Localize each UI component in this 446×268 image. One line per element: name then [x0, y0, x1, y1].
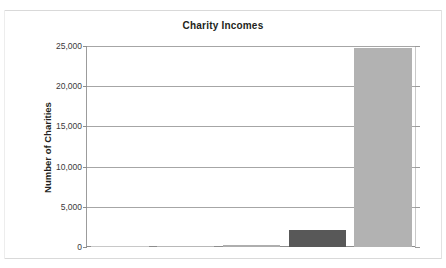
- y-axis-tick-right: [415, 207, 420, 208]
- y-axis-tick-labels: 05,00010,00015,00020,00025,000: [36, 0, 82, 268]
- plot-right-edge: [415, 46, 416, 247]
- y-axis-tick-label: 25,000: [40, 41, 82, 51]
- y-axis-tick-label: 10,000: [40, 162, 82, 172]
- y-axis-tick-label: 20,000: [40, 81, 82, 91]
- y-axis-tick-label: 0: [40, 242, 82, 252]
- y-axis-tick-right: [415, 126, 420, 127]
- bar: [289, 230, 346, 247]
- y-axis-tick: [83, 247, 87, 248]
- chart-screenshot: Charity Incomes Number of Charities 05,0…: [0, 0, 446, 268]
- frame-right-border: [441, 10, 442, 259]
- y-axis-tick-right: [415, 247, 420, 248]
- y-axis-tick-label: 5,000: [40, 202, 82, 212]
- bar: [354, 48, 411, 247]
- bar: [223, 245, 280, 247]
- frame-left-border: [4, 10, 5, 259]
- y-axis-tick-right: [415, 46, 420, 47]
- y-axis-tick-right: [415, 86, 420, 87]
- y-axis-tick-label: 15,000: [40, 121, 82, 131]
- bar: [157, 246, 214, 247]
- y-axis-tick-right: [415, 167, 420, 168]
- bar-series: [87, 46, 415, 247]
- bar: [91, 246, 148, 247]
